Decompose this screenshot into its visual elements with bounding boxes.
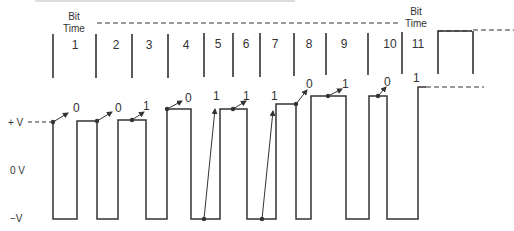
bit-time-label-left-2: Time (63, 23, 85, 34)
cropped-caption-remnant (35, 0, 295, 2)
bit-number-7: 7 (272, 37, 279, 51)
value-bit-7: 1 (271, 89, 278, 103)
value-bit-8: 0 (306, 77, 313, 91)
value-bit-11: 1 (413, 71, 420, 85)
bit-time-label-right-1: Bit (410, 6, 422, 17)
value-bit-2: 0 (115, 101, 122, 115)
bit-dividers (53, 30, 514, 78)
bit-number-3: 3 (146, 38, 153, 52)
plus-v-label: + V (8, 117, 24, 128)
signal-waveform (53, 87, 426, 219)
bit-number-9: 9 (341, 37, 348, 51)
nrzi-waveform-diagram: Bit Time Bit Time 1 2 3 4 5 (0, 0, 514, 231)
bit-number-11: 11 (412, 37, 425, 51)
transition-dots (51, 94, 380, 221)
bit-number-4: 4 (183, 38, 190, 52)
zero-v-label: 0 V (10, 165, 25, 176)
value-bit-4: 0 (185, 91, 192, 105)
bit-time-label-right-2: Time (405, 18, 427, 29)
value-bit-5: 1 (213, 89, 220, 103)
bit-number-10: 10 (383, 37, 397, 51)
voltage-labels: + V 0 V −V (8, 117, 25, 224)
bit-number-2: 2 (113, 38, 120, 52)
value-bit-1: 0 (73, 101, 80, 115)
value-bit-9: 1 (342, 77, 349, 91)
minus-v-label: −V (10, 213, 23, 224)
bit-time-label-left-1: Bit (68, 11, 80, 22)
value-bit-10: 0 (384, 75, 391, 89)
bit-numbers: 1 2 3 4 5 6 7 8 9 10 11 (72, 37, 425, 52)
bit-number-1: 1 (72, 38, 79, 52)
value-bit-3: 1 (143, 99, 150, 113)
bit-number-6: 6 (243, 37, 250, 51)
bit-number-8: 8 (306, 37, 313, 51)
value-bit-6: 1 (243, 89, 250, 103)
bit-time-header: Bit Time Bit Time 1 2 3 4 5 (53, 6, 514, 78)
bit-number-5: 5 (215, 37, 222, 51)
